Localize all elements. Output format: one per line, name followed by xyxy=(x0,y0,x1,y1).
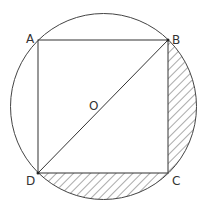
geometry-diagram: A B C D O xyxy=(0,0,206,210)
label-o: O xyxy=(89,99,98,113)
diagonal-bd xyxy=(38,40,168,173)
label-c: C xyxy=(172,174,180,188)
label-d: D xyxy=(26,174,35,188)
point-b xyxy=(167,39,170,42)
label-b: B xyxy=(172,33,180,47)
point-d xyxy=(37,172,40,175)
label-a: A xyxy=(26,32,35,46)
